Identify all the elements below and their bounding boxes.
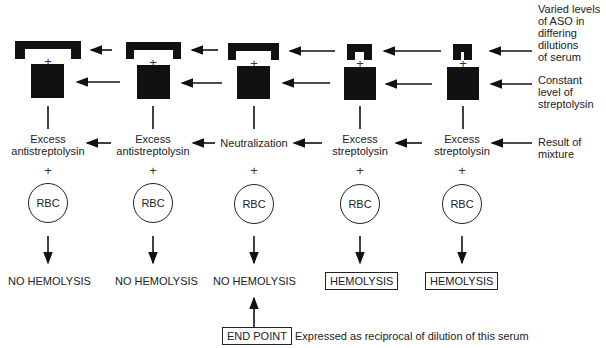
plus-symbol: + xyxy=(146,164,160,177)
rbc-label: RBC xyxy=(36,197,59,209)
streptolysin-block-icon xyxy=(447,67,479,100)
rbc-circle: RBC xyxy=(133,183,173,223)
rbc-label: RBC xyxy=(450,198,473,210)
rbc-circle: RBC xyxy=(442,184,482,224)
mixture-result-line1: Excess xyxy=(312,133,408,145)
rbc-label: RBC xyxy=(348,198,371,210)
outcome-label-boxed: HEMOLYSIS xyxy=(425,272,498,290)
mixture-result-line1: Excess xyxy=(414,133,510,145)
plus-symbol: + xyxy=(455,164,469,177)
outcome-label: NO HEMOLYSIS xyxy=(8,275,91,287)
plus-symbol: + xyxy=(41,164,55,177)
mixture-result-line2: antistreptolysin xyxy=(105,145,201,157)
mixture-result-line1: Excess xyxy=(0,133,96,145)
plus-symbol: + xyxy=(353,164,367,177)
streptolysin-block-icon xyxy=(237,66,270,99)
mixture-result-line2: streptolysin xyxy=(312,145,408,157)
side-label-aso: Varied levels of ASO in differing diluti… xyxy=(538,3,600,63)
side-label-result: Result of mixture xyxy=(538,136,581,160)
rbc-label: RBC xyxy=(141,197,164,209)
outcome-label-boxed: HEMOLYSIS xyxy=(325,272,398,290)
rbc-label: RBC xyxy=(242,198,265,210)
end-point-box: END POINT xyxy=(222,327,292,345)
mixture-result-line2: antistreptolysin xyxy=(0,145,96,157)
streptolysin-block-icon xyxy=(31,64,64,98)
side-label-streptolysin: Constant level of streptolysin xyxy=(538,74,594,110)
rbc-circle: RBC xyxy=(340,184,380,224)
rbc-circle: RBC xyxy=(234,184,274,224)
mixture-result-line2: streptolysin xyxy=(414,145,510,157)
rbc-circle: RBC xyxy=(28,183,68,223)
connector-lines xyxy=(0,0,606,348)
plus-symbol: + xyxy=(247,164,261,177)
streptolysin-block-icon xyxy=(137,65,170,99)
end-point-description: Expressed as reciprocal of dilution of t… xyxy=(295,330,529,342)
outcome-label: NO HEMOLYSIS xyxy=(213,275,296,287)
mixture-result-line1: Excess xyxy=(105,133,201,145)
streptolysin-block-icon xyxy=(344,67,376,100)
outcome-label: NO HEMOLYSIS xyxy=(115,275,198,287)
mixture-result-line1: Neutralization xyxy=(206,137,302,149)
